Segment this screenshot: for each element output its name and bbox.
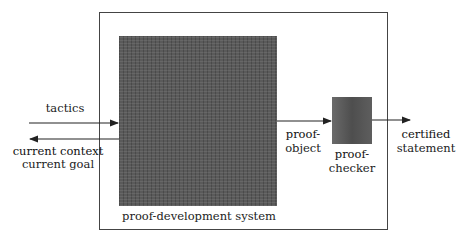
proof-development-system-label: proof-development system (119, 210, 279, 223)
current-goal-label: current goal (8, 158, 108, 171)
certified-label: certified (392, 128, 460, 141)
proof-checker-label-line1: proof- (332, 148, 372, 161)
proof-object-label-line2: object (283, 142, 323, 155)
statement-label: statement (392, 142, 460, 155)
arrows-layer (0, 0, 460, 241)
tactics-label: tactics (30, 102, 100, 115)
proof-checker-label-line2: checker (327, 162, 377, 175)
proof-object-label-line1: proof- (283, 128, 323, 141)
